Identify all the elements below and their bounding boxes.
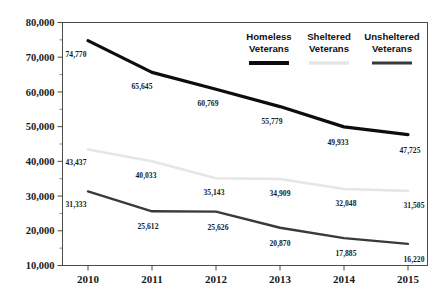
y-axis-tick-label: 60,000 bbox=[26, 87, 55, 98]
data-point-label: 31,505 bbox=[404, 201, 425, 210]
y-axis-tick-label: 70,000 bbox=[26, 52, 55, 63]
data-point-label: 65,645 bbox=[132, 82, 153, 91]
y-axis-tick-label: 40,000 bbox=[26, 156, 55, 167]
data-point-label: 55,779 bbox=[262, 117, 283, 126]
x-axis-tick-label: 2010 bbox=[77, 273, 100, 285]
data-point-label: 20,870 bbox=[270, 239, 291, 248]
legend-label-line2: Veterans bbox=[372, 43, 412, 54]
data-point-label: 16,220 bbox=[404, 255, 425, 264]
x-axis-tick-label: 2012 bbox=[205, 273, 228, 285]
x-axis-tick-label: 2011 bbox=[141, 273, 162, 285]
line-chart: 10,00020,00030,00040,00050,00060,00070,0… bbox=[0, 0, 447, 297]
data-point-label: 17,885 bbox=[336, 249, 357, 258]
legend-label-line1: Sheltered bbox=[307, 31, 351, 42]
data-point-label: 34,909 bbox=[270, 189, 291, 198]
data-point-label: 49,933 bbox=[328, 138, 349, 147]
legend-label-line2: Veterans bbox=[309, 43, 349, 54]
data-point-label: 60,769 bbox=[198, 99, 219, 108]
data-point-label: 25,626 bbox=[208, 223, 229, 232]
y-axis-tick-label: 20,000 bbox=[26, 225, 55, 236]
data-point-label: 35,143 bbox=[204, 188, 225, 197]
y-axis-tick-label: 80,000 bbox=[26, 17, 55, 28]
x-axis-tick-label: 2013 bbox=[269, 273, 292, 285]
chart-container: 10,00020,00030,00040,00050,00060,00070,0… bbox=[0, 0, 447, 297]
y-axis-tick-label: 50,000 bbox=[26, 121, 55, 132]
data-point-label: 43,437 bbox=[66, 158, 87, 167]
y-axis-tick-label: 30,000 bbox=[26, 191, 55, 202]
legend-label-line1: Unsheltered bbox=[364, 31, 420, 42]
data-point-label: 31,333 bbox=[66, 200, 87, 209]
data-point-label: 74,770 bbox=[66, 50, 87, 59]
data-point-label: 47,725 bbox=[400, 146, 421, 155]
x-axis-tick-label: 2015 bbox=[397, 273, 420, 285]
data-point-label: 32,048 bbox=[336, 199, 357, 208]
legend-label-line2: Veterans bbox=[249, 43, 289, 54]
x-axis-tick-label: 2014 bbox=[333, 273, 356, 285]
y-axis-tick-label: 10,000 bbox=[26, 260, 55, 271]
data-point-label: 40,033 bbox=[136, 171, 157, 180]
data-point-label: 25,612 bbox=[138, 222, 159, 231]
legend-label-line1: Homeless bbox=[246, 31, 291, 42]
